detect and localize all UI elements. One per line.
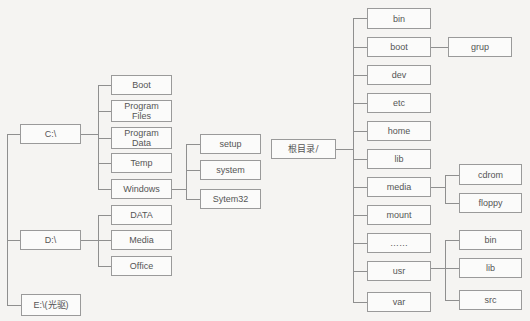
connector <box>7 305 21 306</box>
connector <box>353 103 367 104</box>
connector <box>353 47 367 48</box>
folder-windows[interactable]: Windows <box>111 179 172 199</box>
node-label: boot <box>390 42 408 52</box>
connector <box>98 189 111 190</box>
folder-media[interactable]: Media <box>111 230 172 250</box>
node-label: Office <box>130 261 153 271</box>
node-label: media <box>387 182 412 192</box>
node-label: lib <box>394 154 403 164</box>
dir-usr-bin[interactable]: bin <box>459 230 522 250</box>
connector <box>353 243 367 244</box>
drive-d-node[interactable]: D:\ <box>20 230 81 250</box>
dir-home[interactable]: home <box>367 121 431 141</box>
connector <box>353 75 367 76</box>
node-label: Program Files <box>122 101 162 121</box>
node-label: …… <box>390 238 408 248</box>
connector <box>431 187 445 188</box>
connector <box>81 240 98 241</box>
dir-mount[interactable]: mount <box>367 205 431 225</box>
connector <box>81 134 98 135</box>
node-label: C:\ <box>45 129 57 139</box>
node-label: home <box>388 126 411 136</box>
connector <box>353 18 367 19</box>
dir-usr[interactable]: usr <box>367 261 431 281</box>
dir-bin[interactable]: bin <box>367 8 431 29</box>
node-label: grup <box>471 42 489 52</box>
connector <box>186 170 200 171</box>
connector <box>353 159 367 160</box>
node-label: usr <box>393 266 406 276</box>
connector <box>7 134 20 135</box>
connector <box>336 149 353 150</box>
root-node[interactable]: 根目录/ <box>271 139 336 159</box>
folder-system[interactable]: system <box>200 160 261 180</box>
connector <box>186 144 187 199</box>
folder-setup[interactable]: setup <box>200 134 261 154</box>
connector <box>445 203 459 204</box>
node-label: system <box>216 165 245 175</box>
connector <box>98 138 111 139</box>
dir-floppy[interactable]: floppy <box>459 193 522 213</box>
node-label: bin <box>393 14 405 24</box>
connector <box>186 144 200 145</box>
connector <box>445 300 459 301</box>
folder-program-data[interactable]: Program Data <box>111 127 172 149</box>
node-label: DATA <box>130 210 153 220</box>
connector <box>431 268 445 269</box>
node-label: D:\ <box>45 235 57 245</box>
node-label: mount <box>386 210 411 220</box>
connector <box>353 131 367 132</box>
node-label: Windows <box>123 184 160 194</box>
node-label: Sytem32 <box>213 194 249 204</box>
connector <box>445 175 446 204</box>
connector <box>7 134 8 305</box>
folder-temp[interactable]: Temp <box>111 153 172 173</box>
connector <box>445 240 459 241</box>
node-label: Media <box>129 235 154 245</box>
connector <box>7 240 20 241</box>
folder-system32[interactable]: Sytem32 <box>200 189 261 209</box>
dir-var[interactable]: var <box>367 292 431 312</box>
connector <box>98 111 111 112</box>
node-label: lib <box>486 263 495 273</box>
connector <box>353 215 367 216</box>
node-label: etc <box>393 98 405 108</box>
connector <box>353 302 367 303</box>
connector <box>353 187 367 188</box>
connector <box>98 266 111 267</box>
connector <box>445 268 459 269</box>
node-label: var <box>393 297 406 307</box>
folder-program-files[interactable]: Program Files <box>111 100 172 122</box>
node-label: 根目录/ <box>288 144 318 154</box>
drive-e-node[interactable]: E:\(光驱) <box>21 294 81 316</box>
dir-dev[interactable]: dev <box>367 65 431 85</box>
connector <box>186 199 200 200</box>
connector <box>98 240 111 241</box>
drive-c-node[interactable]: C:\ <box>20 124 81 144</box>
dir-lib[interactable]: lib <box>367 149 431 169</box>
connector <box>172 189 186 190</box>
node-label: setup <box>219 139 241 149</box>
node-label: floppy <box>478 198 502 208</box>
dir-ellipsis: …… <box>367 233 431 253</box>
folder-boot[interactable]: Boot <box>111 75 172 95</box>
folder-office[interactable]: Office <box>111 256 172 276</box>
node-label: cdrom <box>478 170 503 180</box>
node-label: src <box>485 295 497 305</box>
dir-cdrom[interactable]: cdrom <box>459 164 522 185</box>
node-label: bin <box>484 235 496 245</box>
node-label: dev <box>392 70 407 80</box>
dir-usr-lib[interactable]: lib <box>459 258 522 278</box>
connector <box>98 85 111 86</box>
dir-usr-src[interactable]: src <box>459 290 522 310</box>
dir-etc[interactable]: etc <box>367 93 431 113</box>
dir-boot[interactable]: boot <box>367 37 431 57</box>
dir-grup[interactable]: grup <box>448 37 512 57</box>
node-label: Program Data <box>122 128 162 148</box>
dir-media[interactable]: media <box>367 177 431 197</box>
folder-data[interactable]: DATA <box>111 205 172 225</box>
connector <box>353 271 367 272</box>
node-label: Boot <box>132 80 151 90</box>
connector <box>353 18 354 302</box>
connector <box>445 240 446 301</box>
